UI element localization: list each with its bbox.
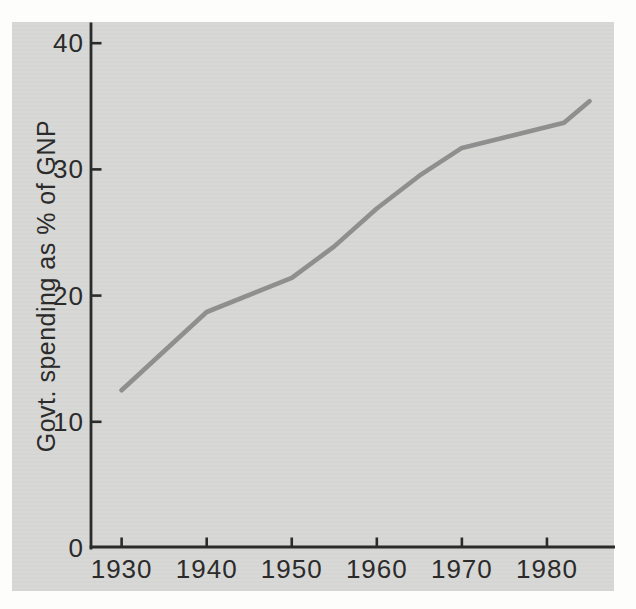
x-tick-label-1980: 1980	[516, 556, 578, 582]
x-tick-label-1940: 1940	[176, 556, 238, 582]
x-tick-label-1960: 1960	[346, 556, 408, 582]
y-tick-label-20: 20	[0, 283, 84, 309]
y-tick-label-0: 0	[0, 535, 84, 561]
line-chart-canvas	[0, 0, 636, 609]
x-tick-label-1970: 1970	[431, 556, 493, 582]
y-tick-label-40: 40	[0, 30, 84, 56]
data-line-govt-spending	[122, 101, 590, 390]
y-tick-label-30: 30	[0, 156, 84, 182]
y-tick-label-10: 10	[0, 409, 84, 435]
x-tick-label-1930: 1930	[91, 556, 153, 582]
chart-figure: Govt. spending as % of GNP 40 30 20 10 0…	[0, 0, 636, 609]
x-tick-label-1950: 1950	[261, 556, 323, 582]
